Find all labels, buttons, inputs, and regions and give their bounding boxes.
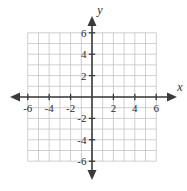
y-axis-tick-label: -6	[77, 155, 87, 167]
x-axis-tick-label: -6	[23, 102, 33, 114]
x-axis-arrow-left	[10, 93, 20, 102]
x-axis-tick-label: 2	[111, 102, 117, 114]
y-axis-tick-label: 2	[81, 70, 87, 82]
y-axis-tick-label: 4	[81, 48, 87, 60]
x-axis-arrow-right	[167, 93, 177, 102]
y-axis-tick-label: 6	[81, 27, 87, 39]
coordinate-plane-svg: -6-4-2246642-2-4-6xy	[0, 0, 187, 191]
x-axis-tick-label: -2	[66, 102, 75, 114]
x-axis-tick-label: 4	[132, 102, 138, 114]
y-axis-arrow-up	[88, 16, 97, 26]
y-axis-arrow-down	[88, 170, 97, 180]
y-axis-tick-label: -2	[77, 112, 86, 124]
y-axis-label: y	[96, 3, 103, 17]
coordinate-plane-figure: -6-4-2246642-2-4-6xy	[0, 0, 187, 191]
x-axis-tick-label: -4	[45, 102, 55, 114]
x-axis-tick-label: 6	[153, 102, 159, 114]
x-axis-label: x	[176, 80, 183, 94]
y-axis-tick-label: -4	[77, 134, 87, 146]
